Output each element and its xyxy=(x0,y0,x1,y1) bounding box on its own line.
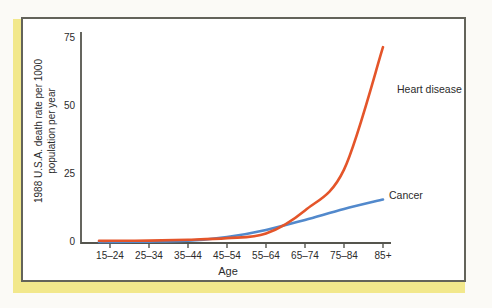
x-tick-label: 85+ xyxy=(355,250,411,262)
axes-lines xyxy=(81,32,391,243)
y-tick-label: 50 xyxy=(23,100,75,112)
y-axis-title-line2: population per year xyxy=(45,46,58,216)
series-label-heart-disease: Heart disease xyxy=(397,83,462,96)
series-line-heart-disease xyxy=(99,47,383,241)
series-line-cancer xyxy=(99,200,383,242)
y-tick-label: 25 xyxy=(23,168,75,180)
y-tick-label: 75 xyxy=(23,32,75,44)
chart-plot-area xyxy=(23,19,464,280)
chart-panel: 1988 U.S.A. death rate per 1000 populati… xyxy=(21,17,466,282)
series-label-cancer: Cancer xyxy=(389,189,423,202)
page-background: 1988 U.S.A. death rate per 1000 populati… xyxy=(0,0,492,308)
x-axis-title: Age xyxy=(200,265,256,278)
y-tick-label: 0 xyxy=(23,236,75,248)
y-axis-title: 1988 U.S.A. death rate per 1000 populati… xyxy=(32,46,58,216)
y-axis-title-line1: 1988 U.S.A. death rate per 1000 xyxy=(32,46,45,216)
